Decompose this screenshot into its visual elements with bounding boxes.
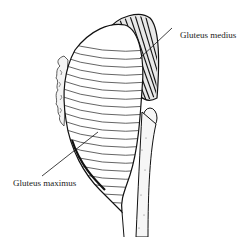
label-gluteus-maximus: Gluteus maximus [13,178,76,188]
label-gluteus-medius: Gluteus medius [180,30,236,40]
anatomy-figure: Gluteus medius Gluteus maximus [0,0,252,237]
